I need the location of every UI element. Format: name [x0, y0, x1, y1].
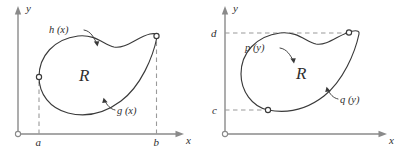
y-axis-label: y — [25, 2, 31, 14]
panel-x-simple-region: y x a b h (x) g (x) R — [0, 0, 201, 149]
panel-y-simple-region: y x d c p (y) q (y) R — [201, 0, 403, 149]
x-axis-arrowhead — [379, 131, 388, 137]
y-lower-bound-label: c — [212, 104, 217, 116]
origin-marker — [222, 131, 227, 136]
origin-marker — [15, 131, 20, 136]
x-upper-bound-label: b — [154, 136, 160, 148]
node-marker-a — [36, 74, 41, 79]
x-lower-bound-label: a — [36, 136, 42, 148]
node-marker-c — [265, 107, 270, 112]
figure-container: y x a b h (x) g (x) R y — [0, 0, 403, 149]
y-axis-label: y — [232, 2, 238, 14]
x-axis-label: x — [185, 134, 191, 146]
upper-curve-label: h (x) — [49, 24, 69, 36]
region-boundary-curve — [39, 34, 157, 115]
y-upper-bound-label: d — [211, 27, 217, 39]
y-axis-arrowhead — [222, 6, 228, 15]
region-label: R — [78, 66, 90, 85]
node-marker-b — [154, 33, 159, 38]
right-curve-label: q (y) — [340, 94, 360, 106]
y-axis-arrowhead — [15, 6, 21, 15]
x-axis-arrowhead — [176, 131, 185, 137]
region-label: R — [295, 64, 307, 83]
x-axis-label: x — [388, 134, 394, 146]
left-curve-label: p (y) — [244, 42, 265, 54]
lower-curve-label: g (x) — [117, 105, 137, 117]
node-marker-d — [346, 30, 351, 35]
